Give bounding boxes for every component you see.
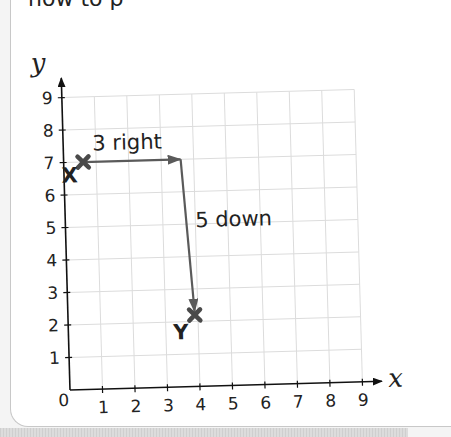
grid-line-vertical <box>224 93 232 385</box>
x-tick-label: 7 <box>293 391 304 411</box>
x-tick-label: 9 <box>358 390 369 410</box>
grid-line-horizontal <box>65 187 357 195</box>
y-axis-label: y <box>29 47 46 77</box>
y-tick-label: 6 <box>44 185 55 205</box>
y-tick-label: 4 <box>46 250 57 270</box>
y-tick-label: 8 <box>42 120 53 140</box>
y-tick-label: 2 <box>48 315 59 335</box>
grid-line-horizontal <box>62 89 354 97</box>
x-tick-label: 5 <box>228 393 239 413</box>
grid-line-horizontal <box>63 122 355 130</box>
x-tick-label: 1 <box>98 397 109 417</box>
grid-line-vertical <box>322 90 330 382</box>
grid-line-vertical <box>192 94 200 386</box>
y-axis <box>61 78 70 390</box>
grid-line-vertical <box>354 89 362 381</box>
grid-line-vertical <box>289 91 297 383</box>
grid-line-horizontal <box>68 317 360 325</box>
grid-line-vertical <box>257 92 265 384</box>
tick-labels: 0123456789123456789 <box>42 79 369 418</box>
arrow-right <box>83 159 180 162</box>
annotation-5-down: 5 down <box>195 206 272 232</box>
x-tick-label: 6 <box>260 392 271 412</box>
y-tick-label: 3 <box>47 283 58 303</box>
x-tick-label: 2 <box>130 396 141 416</box>
x-tick-label: 4 <box>195 394 206 414</box>
x-tick-label: 0 <box>58 390 69 410</box>
x-tick-label: 3 <box>163 395 174 415</box>
y-tick-label: 9 <box>42 88 53 108</box>
annotation-3-right: 3 right <box>92 129 162 155</box>
point-label-x: X <box>61 163 78 187</box>
y-tick-label: 1 <box>49 348 60 368</box>
x-axis-label: x <box>388 363 404 393</box>
grid-line-horizontal <box>66 252 358 260</box>
y-tick-label: 7 <box>43 153 54 173</box>
grid-line-horizontal <box>69 349 361 357</box>
point-label-y: Y <box>172 320 190 344</box>
y-tick-label: 5 <box>45 218 56 238</box>
grid-line-horizontal <box>67 284 359 292</box>
x-tick-label: 8 <box>325 391 336 411</box>
x-axis <box>70 381 382 390</box>
